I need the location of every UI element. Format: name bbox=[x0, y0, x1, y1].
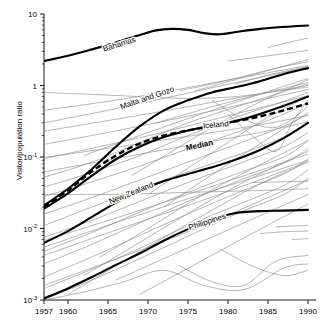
series-annotation: New Zealand bbox=[108, 180, 155, 206]
x-tick-label: 1957 bbox=[35, 307, 53, 316]
series-line-faint bbox=[44, 149, 308, 264]
x-tick-label: 1965 bbox=[99, 307, 117, 316]
series-annotation: Median bbox=[185, 138, 214, 153]
y-tick-exponent: -3 bbox=[32, 295, 37, 301]
series-line-faint bbox=[276, 226, 308, 227]
series-line-faint bbox=[228, 50, 308, 61]
x-tick-label: 1980 bbox=[219, 307, 237, 316]
series-annotation: Iceland bbox=[203, 119, 229, 130]
series-annotation: Bahamas bbox=[102, 35, 137, 53]
y-tick-exponent: -2 bbox=[32, 223, 37, 229]
series-line-highlight bbox=[44, 104, 308, 207]
y-tick-label: 10 bbox=[28, 10, 37, 19]
series-line-faint bbox=[252, 181, 308, 182]
series-line-faint bbox=[260, 231, 308, 233]
series-line-faint bbox=[44, 67, 308, 123]
series-line-faint bbox=[220, 249, 308, 276]
y-tick-label: 10-2 bbox=[23, 223, 37, 233]
series-group bbox=[44, 26, 308, 300]
series-line-faint bbox=[44, 189, 308, 195]
series-line-faint bbox=[44, 66, 308, 111]
x-tick-label: 1960 bbox=[59, 307, 77, 316]
series-line-faint bbox=[196, 60, 308, 91]
series-line-faint bbox=[268, 38, 308, 47]
series-line-faint bbox=[116, 194, 308, 280]
line-chart-plot: 10110-110-210-31957196019651970197519801… bbox=[0, 0, 323, 331]
x-tick-label: 1990 bbox=[299, 307, 317, 316]
x-tick-label: 1975 bbox=[179, 307, 197, 316]
chart-figure: Visitor/population ratio 10110-110-210-3… bbox=[0, 0, 323, 331]
series-line-faint bbox=[44, 116, 308, 158]
y-tick-label: 1 bbox=[33, 82, 38, 91]
series-line-faint bbox=[292, 239, 308, 240]
x-tick-label: 1985 bbox=[259, 307, 277, 316]
y-tick-label: 10-3 bbox=[23, 295, 37, 305]
x-tick-label: 1970 bbox=[139, 307, 157, 316]
series-line-faint bbox=[84, 151, 308, 275]
series-annotation: Philippines bbox=[187, 212, 227, 233]
series-line-faint bbox=[180, 255, 308, 286]
y-tick-label: 10-1 bbox=[23, 152, 37, 162]
y-tick-exponent: -1 bbox=[32, 152, 37, 158]
